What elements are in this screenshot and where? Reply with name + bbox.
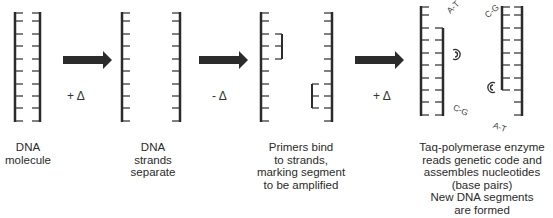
- step-caption-dna-molecule: DNA molecule: [0, 141, 56, 166]
- dna-molecule-graphic: [15, 12, 40, 122]
- arrows: [63, 51, 404, 69]
- step-caption-primers-bind: Primers bind to strands, marking segment…: [255, 141, 347, 191]
- transition-label-heat: + Δ: [67, 89, 85, 103]
- transition-label-heat: + Δ: [373, 89, 391, 103]
- new-dna-segments-graphic: [421, 6, 522, 116]
- primer-top: [275, 34, 282, 59]
- primer-bottom: [312, 84, 319, 108]
- separated-strands-graphic: [122, 12, 180, 122]
- arrow-icon: [355, 51, 404, 69]
- arrow-icon: [63, 51, 112, 69]
- taq-polymerase-icon: [453, 50, 460, 60]
- primers-bound-graphic: [261, 12, 332, 122]
- step-caption-new-dna: Taq-polymerase enzyme reads genetic code…: [411, 141, 553, 216]
- transition-label-cool: - Δ: [212, 89, 227, 103]
- taq-polymerase-icon: [488, 83, 495, 93]
- step-caption-strands-separate: DNA strands separate: [122, 141, 184, 179]
- arrow-icon: [199, 51, 248, 69]
